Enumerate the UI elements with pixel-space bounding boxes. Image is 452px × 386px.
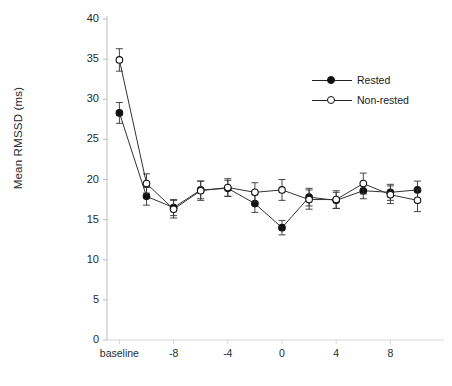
- series-rested: [116, 102, 421, 234]
- x-tick-label: -4: [223, 347, 232, 359]
- chart-plot-area: [0, 0, 452, 386]
- x-tick-label: 4: [333, 347, 339, 359]
- data-point-open-circle-icon: [360, 180, 367, 187]
- x-tick-label: 8: [387, 347, 393, 359]
- y-tick-label: 35: [73, 52, 99, 64]
- x-tick-label: baseline: [100, 347, 139, 359]
- series-line: [119, 113, 417, 228]
- y-tick-label: 5: [73, 293, 99, 305]
- x-tick-label: 0: [279, 347, 285, 359]
- data-point-filled-circle-icon: [279, 224, 286, 231]
- chart-legend: Rested Non-rested: [312, 70, 409, 110]
- legend-item-non-rested: Non-rested: [312, 90, 409, 110]
- data-point-open-circle-icon: [225, 184, 232, 191]
- y-tick-label: 40: [73, 12, 99, 24]
- data-point-filled-circle-icon: [143, 193, 150, 200]
- data-point-open-circle-icon: [197, 187, 204, 194]
- legend-label-non-rested: Non-rested: [357, 94, 409, 106]
- y-tick-label: 10: [73, 253, 99, 265]
- y-tick-label: 25: [73, 132, 99, 144]
- data-point-filled-circle-icon: [116, 110, 123, 117]
- legend-marker-open-circle-icon: [312, 94, 352, 106]
- data-point-open-circle-icon: [252, 189, 259, 196]
- y-axis-label: Mean RMSSD (ms): [12, 8, 34, 268]
- y-tick-label: 20: [73, 173, 99, 185]
- data-point-open-circle-icon: [414, 197, 421, 204]
- data-point-open-circle-icon: [306, 196, 313, 203]
- y-tick-label: 0: [73, 333, 99, 345]
- y-tick-label: 15: [73, 213, 99, 225]
- legend-label-rested: Rested: [357, 74, 390, 86]
- x-tick-label: -8: [169, 347, 178, 359]
- chart-figure: Mean RMSSD (ms) 0510152025303540 baselin…: [0, 0, 452, 386]
- data-point-open-circle-icon: [143, 180, 150, 187]
- legend-marker-filled-circle-icon: [312, 74, 352, 86]
- data-point-open-circle-icon: [387, 191, 394, 198]
- data-point-open-circle-icon: [116, 57, 123, 64]
- data-point-open-circle-icon: [170, 206, 177, 213]
- y-tick-label: 30: [73, 92, 99, 104]
- legend-item-rested: Rested: [312, 70, 409, 90]
- data-point-open-circle-icon: [279, 187, 286, 194]
- data-point-open-circle-icon: [333, 196, 340, 203]
